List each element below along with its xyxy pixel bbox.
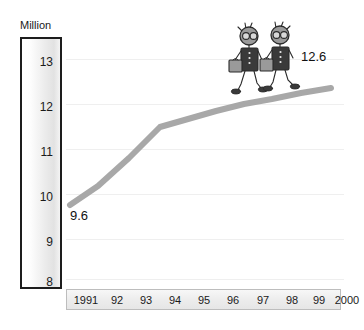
x-axis-tick-93: 93 — [133, 293, 159, 307]
gridline-11 — [66, 149, 344, 150]
gridline-8 — [66, 279, 344, 280]
x-axis-panel: 1991 92 93 94 95 96 97 98 99 2000 — [66, 289, 341, 310]
x-axis-tick-97: 97 — [250, 293, 276, 307]
data-label-2000: 12.6 — [301, 50, 326, 64]
x-axis-tick-95: 95 — [191, 293, 217, 307]
gridline-9 — [66, 239, 344, 240]
gridline-10 — [66, 194, 344, 195]
two-businessmen-walking-icon — [228, 16, 306, 98]
y-axis-tick-4: 9 — [46, 236, 53, 248]
y-axis-panel: 13 12 11 10 9 8 — [20, 37, 62, 289]
x-axis-tick-2000: 2000 — [330, 293, 364, 307]
y-axis-tick-3: 10 — [40, 191, 53, 203]
x-axis-tick-94: 94 — [162, 293, 188, 307]
y-axis-tick-5: 8 — [46, 276, 53, 288]
x-axis-tick-96: 96 — [220, 293, 246, 307]
y-axis-tick-1: 12 — [40, 101, 53, 113]
y-axis-tick-0: 13 — [40, 56, 53, 68]
x-axis-tick-92: 92 — [104, 293, 130, 307]
y-axis-tick-2: 11 — [41, 146, 53, 158]
chart-title — [0, 0, 350, 1]
x-axis-tick-99: 99 — [306, 293, 332, 307]
gridline-12 — [66, 104, 344, 105]
data-label-1991: 9.6 — [70, 209, 88, 223]
y-axis-unit-label: Million — [20, 19, 51, 31]
x-axis-tick-1991: 1991 — [69, 293, 103, 307]
x-axis-tick-98: 98 — [279, 293, 305, 307]
